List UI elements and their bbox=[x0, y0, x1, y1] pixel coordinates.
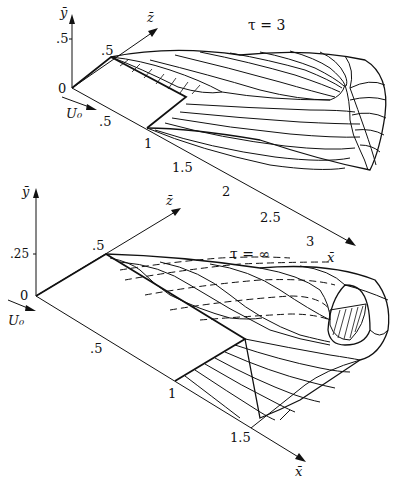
flow-label: U₀ bbox=[66, 106, 83, 121]
x-tick: 1 bbox=[168, 386, 176, 401]
y-axis-label: ȳ bbox=[21, 184, 30, 199]
z-tick: .5 bbox=[101, 43, 113, 58]
y-axis-arrow-icon bbox=[69, 14, 75, 24]
x-tick: 2.5 bbox=[260, 210, 281, 225]
top-plot: ȳ .5 z̄ .5 0 U₀ .5 1 1.5 2 2.5 3 x̄ τ = … bbox=[56, 5, 386, 265]
origin-label: 0 bbox=[58, 81, 66, 96]
x-axis-arrow-icon bbox=[345, 237, 356, 246]
x-tick: 1 bbox=[144, 136, 152, 151]
x-tick: .5 bbox=[99, 114, 111, 129]
flow-label: U₀ bbox=[8, 313, 25, 328]
x-axis bbox=[36, 296, 300, 458]
x-tick: 2 bbox=[222, 184, 230, 199]
x-axis-label: x̄ bbox=[295, 464, 303, 479]
bottom-plot: ȳ .25 z̄ .5 0 U₀ .5 1 1.5 x̄ τ = ∞ bbox=[8, 184, 389, 479]
flow-arrow-icon bbox=[25, 305, 36, 311]
z-axis-label: z̄ bbox=[165, 193, 173, 208]
plate-outline bbox=[72, 57, 186, 128]
plot-title: τ = 3 bbox=[248, 17, 285, 33]
z-axis-arrow-icon bbox=[171, 208, 181, 216]
y-axis-label: ȳ bbox=[59, 5, 68, 20]
x-tick: 3 bbox=[306, 234, 314, 249]
plate-outline bbox=[36, 254, 245, 381]
y-axis-arrow-icon bbox=[33, 188, 39, 198]
origin-label: 0 bbox=[20, 288, 28, 303]
y-tick: .25 bbox=[10, 247, 29, 261]
plot-title: τ = ∞ bbox=[230, 246, 270, 262]
x-tick: 1.5 bbox=[172, 160, 193, 175]
x-tick: .5 bbox=[90, 341, 102, 356]
flow-arrow-icon bbox=[86, 104, 97, 110]
figure-canvas: ȳ .5 z̄ .5 0 U₀ .5 1 1.5 2 2.5 3 x̄ τ = … bbox=[0, 0, 400, 485]
x-axis-label: x̄ bbox=[327, 250, 335, 265]
x-axis bbox=[72, 88, 350, 242]
z-tick: .5 bbox=[92, 238, 104, 253]
z-axis-label: z̄ bbox=[146, 10, 154, 25]
z-axis-arrow-icon bbox=[148, 28, 158, 37]
z-axis bbox=[72, 32, 153, 88]
x-tick: 1.5 bbox=[230, 430, 251, 445]
x-axis-arrow-icon bbox=[295, 453, 306, 462]
y-tick: .5 bbox=[56, 31, 68, 46]
